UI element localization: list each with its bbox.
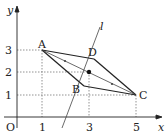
y-tick-3: 3	[5, 44, 12, 57]
coordinate-diagram: A B C D l y x O 1 3 5 3 2 1	[0, 0, 168, 134]
y-tick-1: 1	[5, 89, 12, 102]
point-c-label: C	[139, 89, 147, 102]
line-l-label: l	[100, 20, 104, 33]
point-d-label: D	[88, 46, 97, 59]
x-axis-label: x	[158, 121, 165, 134]
center-point	[87, 70, 91, 74]
point-b-label: B	[72, 83, 80, 96]
y-tick-2: 2	[5, 66, 12, 79]
point-a-label: A	[37, 38, 47, 51]
x-tick-1: 1	[39, 121, 46, 134]
line-l	[62, 27, 100, 128]
x-tick-3: 3	[86, 121, 93, 134]
y-axis-label: y	[6, 4, 14, 17]
x-tick-5: 5	[133, 121, 140, 134]
labels: A B C D l y x O 1 3 5 3 2 1	[5, 4, 165, 134]
axes	[4, 6, 162, 128]
origin-label: O	[6, 121, 15, 134]
